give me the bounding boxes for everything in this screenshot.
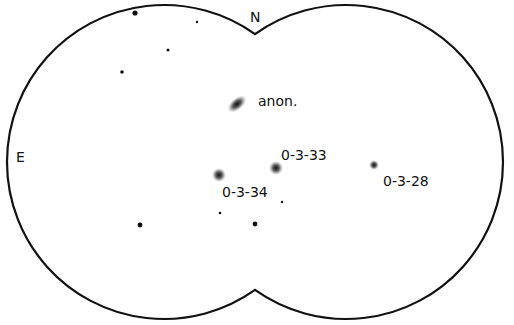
star-dot — [196, 21, 198, 23]
galaxy-label: 0-3-34 — [222, 184, 268, 200]
star-dot — [167, 49, 170, 52]
east-label: E — [16, 149, 25, 165]
galaxy-blob-icon — [269, 161, 283, 175]
star-dot — [219, 212, 222, 215]
galaxies-layer: anon.0-3-330-3-340-3-28 — [212, 92, 429, 200]
galaxy-label: 0-3-28 — [383, 173, 429, 189]
star-dot — [138, 223, 143, 228]
galaxy-blob-icon — [369, 160, 379, 170]
galaxy-blob-icon — [212, 168, 226, 182]
galaxy-anon: anon. — [225, 92, 298, 115]
star-dot — [253, 222, 258, 227]
galaxy-0-3-28: 0-3-28 — [369, 160, 429, 189]
star-dot — [132, 10, 137, 15]
north-label: N — [250, 9, 260, 25]
galaxy-label: anon. — [258, 93, 297, 109]
galaxy-0-3-33: 0-3-33 — [269, 147, 327, 175]
finder-chart: N E anon.0-3-330-3-340-3-28 — [0, 0, 514, 325]
star-dot — [120, 70, 124, 74]
galaxy-0-3-34: 0-3-34 — [212, 168, 268, 200]
field-of-view-outline — [7, 5, 503, 319]
galaxy-blob-icon — [225, 92, 250, 115]
star-dot — [281, 201, 283, 203]
galaxy-label: 0-3-33 — [281, 147, 327, 163]
